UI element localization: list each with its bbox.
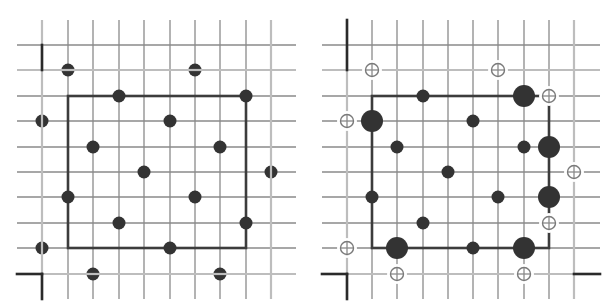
- large-lattice-point: [513, 85, 535, 107]
- diagram-figure: [0, 0, 611, 307]
- lattice-point: [492, 191, 505, 204]
- open-lattice-point: [514, 264, 534, 284]
- open-lattice-point: [362, 60, 382, 80]
- lattice-point: [391, 141, 404, 154]
- large-lattice-point: [361, 110, 383, 132]
- lattice-point: [417, 90, 430, 103]
- right-panel: [322, 20, 600, 299]
- lattice-point: [113, 90, 126, 103]
- large-lattice-point: [513, 237, 535, 259]
- open-lattice-point: [488, 60, 508, 80]
- open-lattice-point: [564, 162, 584, 182]
- lattice-point: [113, 217, 126, 230]
- lattice-point: [138, 166, 151, 179]
- open-lattice-point: [337, 238, 357, 258]
- lattice-point: [62, 191, 75, 204]
- open-lattice-point: [337, 111, 357, 131]
- open-lattice-point: [539, 86, 559, 106]
- large-lattice-point: [538, 186, 560, 208]
- large-lattice-point: [538, 136, 560, 158]
- left-panel: [17, 20, 296, 299]
- open-lattice-point: [539, 213, 559, 233]
- lattice-point: [189, 191, 202, 204]
- open-lattice-point: [387, 264, 407, 284]
- lattice-point: [442, 166, 455, 179]
- lattice-point: [87, 141, 100, 154]
- lattice-point: [467, 242, 480, 255]
- large-lattice-point: [386, 237, 408, 259]
- lattice-point: [366, 191, 379, 204]
- lattice-point: [467, 115, 480, 128]
- lattice-point: [240, 217, 253, 230]
- lattice-point: [518, 141, 531, 154]
- lattice-point: [164, 115, 177, 128]
- lattice-point: [417, 217, 430, 230]
- lattice-point: [240, 90, 253, 103]
- lattice-point: [214, 141, 227, 154]
- lattice-diagram: [0, 0, 611, 307]
- lattice-point: [164, 242, 177, 255]
